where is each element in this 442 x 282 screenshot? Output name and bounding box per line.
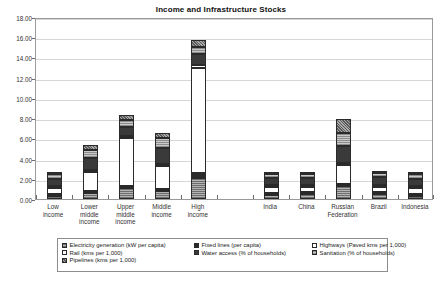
- bar-segment-water[interactable]: [408, 179, 423, 186]
- x-tick-mark: [36, 195, 37, 199]
- legend-item-water[interactable]: Water access (% of households): [194, 250, 312, 256]
- bar-segment-elec[interactable]: [155, 191, 170, 199]
- y-tick-mark: [32, 38, 35, 39]
- bar-segment-sani[interactable]: [191, 47, 206, 54]
- y-tick-label: 8.00: [0, 116, 32, 123]
- bar-segment-water[interactable]: [336, 146, 351, 163]
- bar-segment-high[interactable]: [191, 68, 206, 173]
- legend-item-sani[interactable]: Sanitation (% of households): [312, 250, 406, 256]
- bar-column[interactable]: [155, 133, 170, 199]
- bar-segment-water[interactable]: [372, 177, 387, 185]
- bar-column[interactable]: [47, 172, 62, 199]
- bar-segment-pipe[interactable]: [336, 119, 351, 133]
- bar-segment-water[interactable]: [47, 179, 62, 187]
- bars-layer: [36, 19, 432, 199]
- chart-legend: Electricity generation (kW per capita)Fi…: [57, 238, 388, 272]
- y-tick-label: 12.00: [0, 75, 32, 82]
- bar-segment-sani[interactable]: [83, 150, 98, 158]
- y-tick-label: 10.00: [0, 95, 32, 102]
- bar-segment-elec[interactable]: [119, 188, 134, 199]
- legend-grid: Electricity generation (kW per capita)Fi…: [62, 242, 383, 263]
- bar-column[interactable]: [372, 171, 387, 199]
- legend-swatch-elec-icon: [62, 243, 67, 248]
- legend-swatch-sani-icon: [312, 250, 317, 255]
- bar-segment-water[interactable]: [83, 158, 98, 170]
- legend-item-pipe[interactable]: Pipelines (kms per 1,000): [62, 257, 194, 263]
- legend-swatch-fixed-icon: [194, 243, 199, 248]
- bar-segment-elec[interactable]: [372, 194, 387, 199]
- plot-area: [35, 18, 433, 200]
- x-tick-mark: [145, 195, 146, 199]
- bar-segment-high[interactable]: [155, 166, 170, 189]
- y-tick-mark: [32, 79, 35, 80]
- y-tick-label: 2.00: [0, 176, 32, 183]
- bar-segment-water[interactable]: [264, 178, 279, 186]
- legend-label: Rail (kms per 1,000): [70, 250, 123, 256]
- bar-column[interactable]: [119, 115, 134, 199]
- legend-label: Electricity generation (kW per capita): [70, 242, 166, 248]
- x-axis-label: Indonesia: [390, 203, 440, 211]
- legend-label: Pipelines (kms per 1,000): [70, 257, 137, 263]
- bar-segment-elec[interactable]: [264, 195, 279, 199]
- y-tick-mark: [32, 58, 35, 59]
- bar-segment-elec[interactable]: [47, 196, 62, 199]
- bar-segment-pipe[interactable]: [191, 40, 206, 47]
- legend-swatch-rail-icon: [62, 250, 67, 255]
- legend-item-rail[interactable]: Rail (kms per 1,000): [62, 250, 194, 256]
- bar-segment-elec[interactable]: [300, 194, 315, 199]
- x-tick-mark: [253, 195, 254, 199]
- bar-segment-water[interactable]: [300, 178, 315, 185]
- bar-segment-high[interactable]: [83, 172, 98, 192]
- chart-root: Income and Infrastructure Stocks 0.002.0…: [0, 0, 442, 282]
- x-tick-mark: [433, 195, 434, 199]
- bar-segment-elec[interactable]: [191, 178, 206, 199]
- y-tick-mark: [32, 200, 35, 201]
- legend-label: Sanitation (% of households): [320, 250, 395, 256]
- bar-column[interactable]: [83, 145, 98, 199]
- bar-column[interactable]: [336, 119, 351, 199]
- bar-segment-high[interactable]: [119, 138, 134, 186]
- legend-item-fixed[interactable]: Fixed lines (per capita): [194, 242, 312, 248]
- y-tick-label: 6.00: [0, 136, 32, 143]
- bar-segment-water[interactable]: [119, 127, 134, 137]
- x-tick-mark: [72, 195, 73, 199]
- x-tick-mark: [289, 195, 290, 199]
- bar-segment-sani[interactable]: [336, 133, 351, 147]
- bar-segment-elec[interactable]: [408, 196, 423, 199]
- bar-column[interactable]: [300, 172, 315, 199]
- bar-segment-water[interactable]: [191, 54, 206, 65]
- y-tick-mark: [32, 139, 35, 140]
- y-tick-mark: [32, 160, 35, 161]
- legend-swatch-high-icon: [312, 243, 317, 248]
- x-tick-mark: [217, 195, 218, 199]
- x-tick-mark: [398, 195, 399, 199]
- x-axis-label: Highincome: [173, 203, 223, 218]
- bar-segment-elec[interactable]: [336, 186, 351, 199]
- legend-item-high[interactable]: Highways (Paved kms per 1,000): [312, 242, 406, 248]
- y-tick-mark: [32, 180, 35, 181]
- legend-label: Fixed lines (per capita): [202, 242, 262, 248]
- y-tick-mark: [32, 119, 35, 120]
- bar-column[interactable]: [408, 172, 423, 199]
- y-tick-label: 14.00: [0, 55, 32, 62]
- x-tick-mark: [362, 195, 363, 199]
- bar-column[interactable]: [264, 172, 279, 199]
- bar-segment-elec[interactable]: [83, 193, 98, 199]
- chart-title: Income and Infrastructure Stocks: [0, 5, 442, 14]
- bar-segment-high[interactable]: [336, 165, 351, 184]
- y-tick-label: 4.00: [0, 156, 32, 163]
- legend-swatch-water-icon: [194, 250, 199, 255]
- bar-column[interactable]: [191, 40, 206, 199]
- x-tick-mark: [108, 195, 109, 199]
- x-tick-mark: [181, 195, 182, 199]
- y-tick-mark: [32, 99, 35, 100]
- y-tick-label: 16.00: [0, 35, 32, 42]
- bar-segment-water[interactable]: [155, 148, 170, 164]
- legend-item-elec[interactable]: Electricity generation (kW per capita): [62, 242, 194, 248]
- legend-swatch-pipe-icon: [62, 258, 67, 263]
- bar-segment-sani[interactable]: [155, 138, 170, 148]
- y-tick-mark: [32, 18, 35, 19]
- legend-label: Highways (Paved kms per 1,000): [320, 242, 407, 248]
- x-tick-mark: [325, 195, 326, 199]
- legend-label: Water access (% of households): [202, 250, 287, 256]
